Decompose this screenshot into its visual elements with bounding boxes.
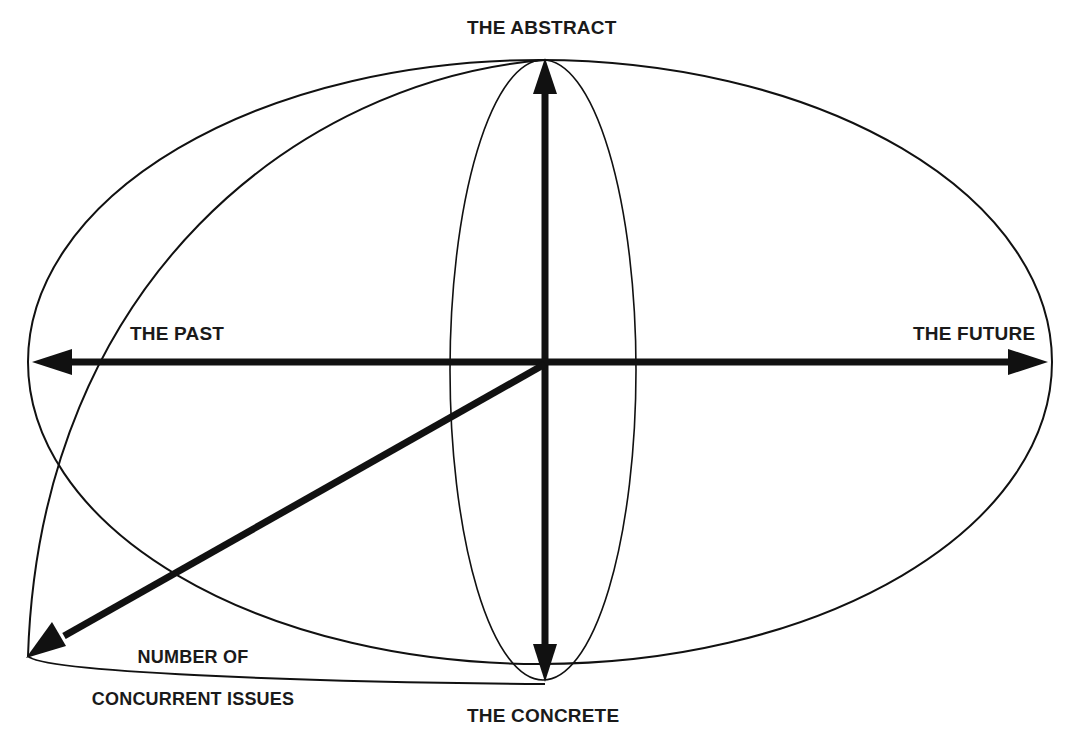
- label-concurrent-issues-line1: NUMBER OF: [68, 647, 318, 668]
- arrow-up-icon: [533, 58, 557, 94]
- arrow-left-icon: [32, 349, 72, 375]
- arrow-diagonal-icon: [26, 622, 66, 658]
- label-concurrent-issues: NUMBER OF CONCURRENT ISSUES: [68, 626, 318, 731]
- arrow-right-icon: [1008, 349, 1048, 375]
- label-concurrent-issues-line2: CONCURRENT ISSUES: [68, 689, 318, 710]
- label-the-past: THE PAST: [130, 324, 224, 343]
- label-the-abstract: THE ABSTRACT: [467, 18, 616, 37]
- depth-curve: [28, 60, 545, 684]
- diagonal-axis-line: [64, 364, 545, 636]
- label-the-future: THE FUTURE: [913, 324, 1035, 343]
- label-the-concrete: THE CONCRETE: [467, 706, 619, 725]
